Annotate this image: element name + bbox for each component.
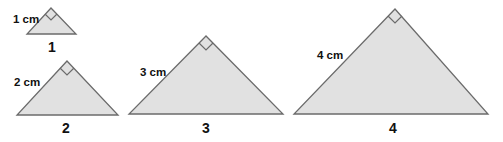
side-length-label: 4 cm bbox=[317, 49, 343, 61]
triangle-4-shape bbox=[294, 9, 488, 114]
triangle-4: 4 cm 4 bbox=[294, 9, 488, 136]
triangle-number-label: 1 bbox=[48, 39, 56, 55]
triangle-3: 3 cm 3 bbox=[129, 36, 283, 136]
triangle-number-label: 2 bbox=[62, 120, 70, 136]
side-length-label: 3 cm bbox=[140, 66, 166, 78]
side-length-label: 2 cm bbox=[14, 76, 40, 88]
triangle-2-shape bbox=[17, 61, 118, 115]
side-length-label: 1 cm bbox=[13, 13, 39, 25]
triangle-number-label: 3 bbox=[202, 120, 210, 136]
triangle-number-label: 4 bbox=[389, 120, 397, 136]
triangles-diagram: 1 cm 1 2 cm 2 3 cm 3 4 cm 4 bbox=[0, 0, 503, 142]
triangle-1: 1 cm 1 bbox=[13, 8, 76, 55]
triangle-2: 2 cm 2 bbox=[14, 61, 118, 136]
